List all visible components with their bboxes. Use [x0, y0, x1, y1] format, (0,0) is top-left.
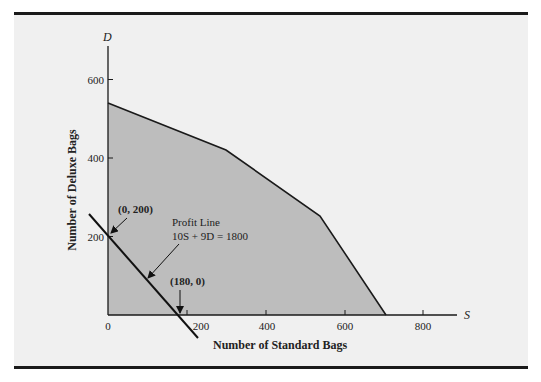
point-label-180-0: (180, 0) [170, 275, 205, 288]
x-tick-400: 400 [259, 320, 276, 332]
profit-line-label: Profit Line [172, 216, 220, 228]
x-axis-symbol: S [464, 308, 470, 322]
y-tick-600: 600 [88, 74, 105, 86]
y-tick-400: 400 [88, 152, 105, 164]
x-tick-0: 0 [105, 320, 111, 332]
x-axis-title: Number of Standard Bags [213, 338, 347, 352]
point-label-0-200: (0, 200) [118, 203, 153, 216]
x-tick-200: 200 [193, 320, 210, 332]
y-axis-symbol: D [102, 30, 112, 44]
chart-svg: D S 200 400 600 0 200 400 600 800 Number… [0, 0, 541, 382]
profit-line-equation: 10S + 9D = 1800 [172, 230, 248, 242]
x-tick-600: 600 [337, 320, 354, 332]
x-tick-800: 800 [415, 320, 432, 332]
y-tick-200: 200 [88, 231, 105, 243]
y-axis-title: Number of Deluxe Bags [65, 129, 79, 251]
